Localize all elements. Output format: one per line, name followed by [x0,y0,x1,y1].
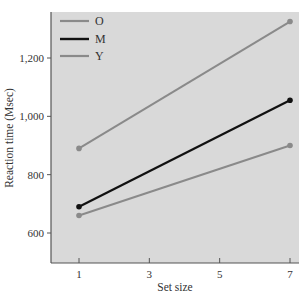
line-chart: 6008001,0001,2001357 OMY Set size Reacti… [0,0,306,297]
y-tick-label: 800 [28,169,45,181]
legend-label: M [95,32,106,46]
x-tick-label: 7 [287,268,293,280]
data-point [287,97,293,103]
x-tick-label: 5 [217,268,223,280]
data-point [76,213,82,219]
y-tick-label: 1,200 [19,52,44,64]
data-point [287,19,293,25]
x-tick-label: 1 [76,268,82,280]
data-point [76,204,82,210]
legend: OMY [60,14,106,63]
y-tick-label: 1,000 [19,110,44,122]
data-point [76,146,82,152]
legend-label: O [95,14,104,28]
y-tick-label: 600 [28,227,45,239]
legend-label: Y [95,49,104,63]
data-point [287,143,293,149]
y-axis-label: Reaction time (Msec) [3,88,16,188]
plot-area [51,12,299,263]
x-tick-label: 3 [147,268,153,280]
x-axis-label: Set size [157,281,192,293]
